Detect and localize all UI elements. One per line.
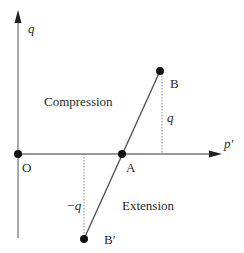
stress-path-diagram: q p′ Compression Extension B q −q B′ O A bbox=[0, 0, 244, 253]
q-axis-label: q bbox=[28, 21, 35, 36]
arrow-right-icon bbox=[209, 151, 222, 158]
point-b-prime-label: B′ bbox=[104, 232, 116, 247]
p-axis-label: p′ bbox=[223, 136, 234, 151]
compression-label: Compression bbox=[44, 94, 113, 109]
arrow-up-icon bbox=[15, 10, 22, 23]
q-axis bbox=[15, 10, 22, 238]
minus-q-offset-label: −q bbox=[66, 198, 82, 213]
point-o bbox=[14, 150, 22, 158]
point-a bbox=[118, 150, 126, 158]
q-offset-label: q bbox=[167, 110, 174, 125]
point-a-label: A bbox=[126, 160, 136, 175]
point-o-label: O bbox=[22, 160, 31, 175]
extension-label: Extension bbox=[122, 198, 174, 213]
point-b-prime bbox=[80, 235, 88, 243]
point-b-label: B bbox=[170, 76, 179, 91]
point-b bbox=[156, 67, 164, 75]
